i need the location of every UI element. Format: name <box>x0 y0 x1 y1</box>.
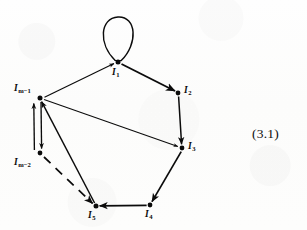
node-label-I3-subscript: 3 <box>192 145 195 152</box>
node-I2 <box>176 91 181 96</box>
node-label-I4: I4 <box>145 210 153 220</box>
node-label-I2-subscript: 2 <box>188 89 191 96</box>
edge-Im2-to-Im1 <box>34 103 35 150</box>
node-label-Im1: Im−1 <box>14 84 31 94</box>
node-label-Im1-subscript: m−1 <box>18 87 31 94</box>
edge-Im1-to-I1 <box>45 64 115 98</box>
edge-I1-to-I2 <box>122 64 176 91</box>
directed-graph-canvas <box>0 0 307 230</box>
edge-Im1-to-I3 <box>44 99 178 146</box>
equation-number: (3.1) <box>252 126 279 142</box>
figure-container: I1 I2 I3 I4 I5 Im−2 Im−1 (3.1) <box>0 0 307 230</box>
node-label-I1: I1 <box>112 68 120 78</box>
node-label-Im2: Im−2 <box>14 158 31 168</box>
edge-Im2-to-I5-dashed <box>44 157 93 203</box>
node-label-I5: I5 <box>88 211 96 221</box>
node-label-I5-subscript: 5 <box>92 214 95 221</box>
node-I3 <box>180 146 185 151</box>
node-I5 <box>94 204 99 209</box>
edge-I2-to-I3 <box>179 97 182 145</box>
node-label-I2: I2 <box>184 86 192 96</box>
edge-I3-to-I4 <box>152 152 181 202</box>
node-label-Im2-subscript: m−2 <box>18 161 31 168</box>
node-I4 <box>148 203 153 208</box>
node-label-I4-subscript: 4 <box>149 213 152 220</box>
node-Im2 <box>38 151 43 156</box>
node-I1 <box>116 60 121 65</box>
edge-I5-to-Im1 <box>42 102 95 203</box>
edge-Im1-to-Im2 <box>41 102 42 149</box>
node-label-I1-subscript: 1 <box>116 71 119 78</box>
edge-self-loop-I1 <box>103 17 133 61</box>
node-Im1 <box>38 96 43 101</box>
node-label-I3: I3 <box>188 142 196 152</box>
